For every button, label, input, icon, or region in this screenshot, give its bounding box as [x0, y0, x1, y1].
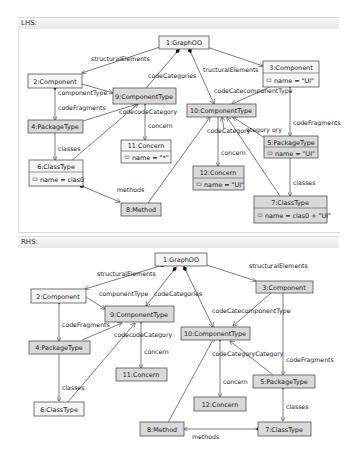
node-label: 2:Component	[36, 293, 80, 301]
node-label: 7:ClassType	[271, 199, 309, 207]
label-lhs-concern-12: concern	[221, 149, 246, 156]
node-label: 6:ClassType	[37, 163, 75, 171]
label-lhs-componentType: componentType	[58, 89, 107, 97]
node-label: 8:Method	[126, 206, 156, 214]
node-label: 12:Concern	[200, 169, 237, 177]
node-attribute: name = "UI"	[204, 181, 244, 189]
edge-lhs-1-3	[207, 47, 263, 66]
label-rhs-concern-12: concern	[223, 378, 248, 385]
rhs-node-3-component[interactable]: 3:Component	[256, 281, 313, 293]
label-lhs-classes-7: classes	[293, 179, 315, 186]
label-lhs-codecodeCategory: codecodeCategory	[119, 108, 177, 116]
label-lhs-codeCatecomponentType: codeCatecomponentType	[214, 87, 293, 95]
label-lhs-codeCategories: codeCategories	[148, 72, 196, 80]
node-attribute: name = clas0 + "UI"	[265, 212, 331, 220]
node-label: 4:PackageType	[31, 123, 78, 131]
edge-rhs-8-10	[165, 338, 214, 428]
lhs-node-4-packagetype[interactable]: 4:PackageType	[28, 120, 83, 133]
node-attribute: name = clas0	[40, 176, 84, 184]
rhs-node-11-concern[interactable]: 11:Concern	[116, 368, 167, 381]
node-attribute: name = "UI"	[275, 150, 315, 158]
rhs-node-1-graphoo[interactable]: 1:GraphOO	[155, 253, 207, 266]
diagram-canvas: structuralElements codeCategories tructu…	[0, 0, 354, 462]
label-rhs-structuralElements-left: structuralElements	[97, 270, 156, 277]
label-rhs-classes-7: classes	[286, 403, 308, 410]
label-rhs-codeFragments-5: codeFragments	[286, 356, 334, 364]
lhs-node-6-classtype[interactable]: 6:ClassType name = clas0	[29, 160, 84, 186]
label-lhs-codeFragments-5: codeFragments	[293, 119, 341, 127]
node-label: 11:Concern	[123, 371, 160, 379]
node-label: 2:Component	[33, 78, 77, 86]
rhs-node-9-componenttype[interactable]: 9:ComponentType	[105, 306, 174, 322]
label-rhs-codeFragments: codeFragments	[62, 321, 110, 329]
rhs-node-8-method[interactable]: 8:Method	[140, 422, 184, 436]
label-rhs-componentType: componentType	[99, 290, 148, 298]
label-rhs-codeCatecomponentType: codeCatecomponentType	[212, 307, 291, 315]
rhs-node-2-component[interactable]: 2:Component	[31, 289, 86, 303]
node-label: 9:ComponentType	[115, 93, 173, 101]
node-label: 10:ComponentType	[190, 107, 252, 115]
label-rhs-concern-11: concern	[144, 348, 169, 355]
node-label: 5:PackageType	[260, 378, 307, 386]
rhs-node-12-concern[interactable]: 12:Concern	[194, 397, 246, 411]
lhs-node-3-component[interactable]: 3:Component name = "UI"	[263, 61, 319, 87]
label-rhs-codeCategoryCategory: codeCategoryCategory	[212, 350, 284, 358]
lhs-node-7-classtype[interactable]: 7:ClassType name = clas0 + "UI"	[254, 196, 331, 223]
label-lhs-methods: methods	[117, 186, 144, 193]
node-label: 1:GraphOO	[163, 256, 199, 264]
node-attribute: name = "UI"	[274, 77, 314, 85]
edge-rhs-2-9	[86, 297, 105, 309]
label-lhs-ategory-ory: ategory ory	[246, 126, 282, 134]
lhs-node-11-concern[interactable]: 11:Concern name = "*"	[121, 140, 171, 163]
node-label: 7:ClassType	[265, 426, 303, 434]
node-label: 12:Concern	[202, 401, 239, 409]
node-label: 11:Concern	[128, 142, 165, 150]
node-label: 6:ClassType	[40, 406, 78, 414]
label-lhs-codeFragments: codeFragments	[58, 104, 106, 112]
node-attribute: name = "*"	[132, 154, 169, 162]
lhs-node-12-concern[interactable]: 12:Concern name = "UI"	[193, 166, 244, 190]
label-rhs-structuralElements-right: structuralElements	[249, 262, 308, 269]
label-rhs-codecodeCategory: codecodeCategory	[114, 331, 172, 339]
lhs-node-10-componenttype[interactable]: 10:ComponentType	[187, 104, 256, 117]
node-label: 3:Component	[269, 64, 313, 72]
lhs-node-5-packagetype[interactable]: 5:PackageType name = "UI"	[264, 136, 318, 158]
rhs-node-6-classtype[interactable]: 6:ClassType	[34, 402, 84, 416]
edge-rhs-1-10	[186, 271, 213, 327]
rhs-node-5-packagetype[interactable]: 5:PackageType	[253, 375, 315, 388]
node-label: 8:Method	[147, 426, 177, 434]
label-lhs-concern-11: concern	[148, 122, 173, 129]
label-lhs-structuralElements-right: tructuralElements	[203, 66, 259, 73]
rhs-node-4-packagetype[interactable]: 4:PackageType	[29, 341, 90, 354]
lhs-node-1-graphoo[interactable]: 1:GraphOO	[159, 36, 209, 49]
node-label: 9:ComponentType	[110, 311, 168, 319]
node-label: 5:PackageType	[267, 139, 314, 147]
edge-lhs-6-8	[84, 187, 120, 202]
label-rhs-classes-6: classes	[62, 384, 84, 391]
lhs-node-9-componenttype[interactable]: 9:ComponentType	[113, 88, 176, 104]
rhs-node-10-componenttype[interactable]: 10:ComponentType	[181, 327, 250, 340]
lhs-node-2-component[interactable]: 2:Component	[28, 74, 82, 88]
edge-rhs-5-10	[230, 341, 273, 375]
label-lhs-codeCategory: codeCategory	[207, 127, 251, 135]
label-lhs-classes-6: classes	[58, 145, 80, 152]
label-lhs-structuralElements-left: structuralElements	[91, 55, 150, 62]
node-label: 4:PackageType	[35, 344, 82, 352]
node-label: 1:GraphOO	[166, 39, 202, 47]
label-rhs-codeCategories: codeCategories	[154, 290, 202, 298]
rhs-node-7-classtype[interactable]: 7:ClassType	[258, 422, 311, 436]
node-label: 10:ComponentType	[184, 330, 246, 338]
lhs-node-8-method[interactable]: 8:Method	[121, 203, 161, 216]
label-rhs-methods: methods	[192, 433, 219, 440]
node-label: 3:Component	[262, 284, 306, 292]
